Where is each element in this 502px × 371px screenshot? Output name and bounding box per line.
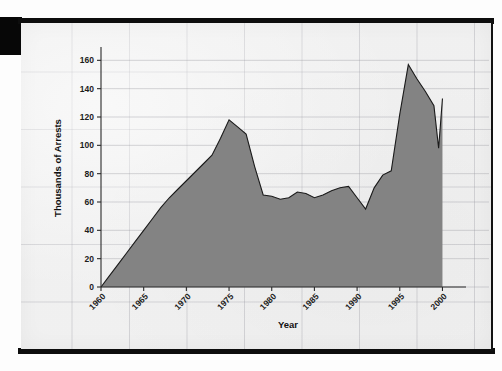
x-axis-title: Year (278, 319, 298, 330)
y-tick-label: 60 (85, 197, 95, 207)
x-tick-label: 2000 (428, 291, 449, 312)
x-tick-label: 1965 (130, 291, 151, 312)
y-tick-label: 140 (80, 84, 94, 94)
y-tick-label: 120 (80, 112, 94, 122)
y-tick-group: 020406080100120140160 (80, 55, 101, 292)
x-tick-label: 1985 (300, 291, 321, 312)
y-tick-label: 80 (85, 169, 95, 179)
x-tick-label: 1990 (343, 291, 364, 312)
x-tick-label: 1960 (87, 291, 108, 312)
scanned-page: 020406080100120140160 196019651970197519… (0, 0, 502, 371)
x-tick-label: 1980 (258, 291, 279, 312)
y-tick-label: 100 (80, 140, 94, 150)
x-tick-group: 196019651970197519801985199019952000 (87, 287, 449, 312)
x-tick-label: 1975 (215, 291, 236, 312)
y-tick-label: 160 (80, 55, 94, 65)
series-area-fill (101, 65, 442, 287)
y-tick-label: 40 (85, 225, 95, 235)
y-tick-label: 20 (85, 254, 95, 264)
chart-svg: 020406080100120140160 196019651970197519… (21, 23, 491, 349)
x-tick-label: 1995 (386, 291, 407, 312)
y-axis-title: Thousands of Arrests (52, 119, 63, 217)
area-chart-figure: 020406080100120140160 196019651970197519… (21, 23, 491, 349)
x-tick-label: 1970 (172, 291, 193, 312)
y-tick-label: 0 (89, 282, 94, 292)
